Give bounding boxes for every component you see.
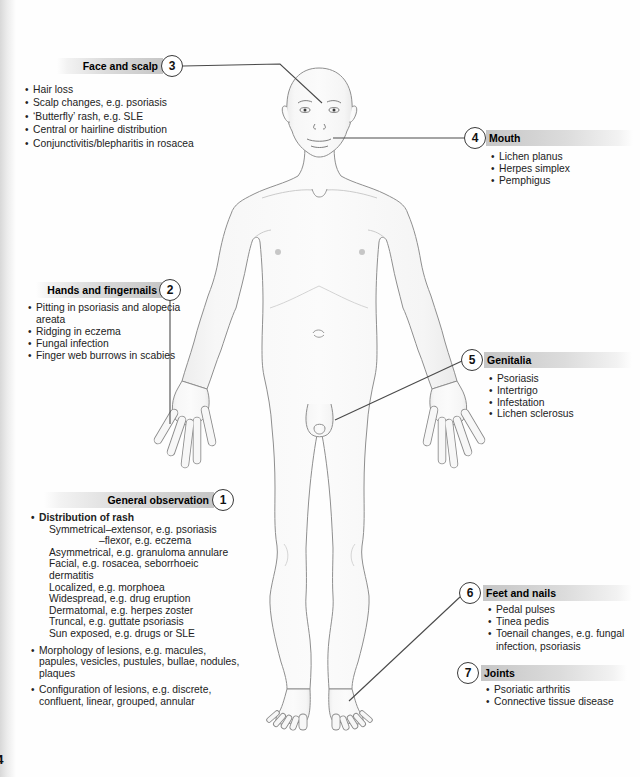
callout-item: •Ridging in eczema (27, 326, 209, 338)
callout-item: –flexor, e.g. eczema (30, 535, 245, 547)
bullet-dot: • (25, 96, 29, 109)
callout-items: •Distribution of rashSymmetrical–extenso… (30, 512, 245, 708)
left-pupil (304, 109, 307, 112)
head (287, 68, 353, 157)
bullet-dot: • (25, 83, 29, 96)
callout-item-text: Ridging in eczema (36, 326, 121, 337)
callout-item-text: Configuration of lesions, e.g. discrete,… (39, 684, 211, 707)
callout-item: Asymmetrical, e.g. granuloma annulare (30, 547, 245, 559)
bullet-dot: • (489, 373, 493, 385)
bullet-dot: • (489, 408, 493, 420)
callout-item: •Herpes simplex (490, 163, 632, 175)
callout-item-text: Facial, e.g. rosacea, seborrhoeic dermat… (49, 558, 198, 581)
callout-items: •Hair loss•Scalp changes, e.g. psoriasis… (24, 83, 196, 150)
callout-item-text: Lichen sclerosus (497, 408, 574, 419)
callout-item-text: Asymmetrical, e.g. granuloma annulare (49, 547, 228, 558)
callout-item-text: Widespread, e.g. drug eruption (49, 593, 190, 604)
callout-item-text: Intertrigo (497, 385, 538, 396)
callout-item-text: Symmetrical–extensor, e.g. psoriasis (49, 524, 217, 535)
bullet-dot: • (28, 302, 32, 314)
bullet-dot: • (491, 175, 495, 187)
callout-item-text: Scalp changes, e.g. psoriasis (33, 97, 167, 108)
callout-item-text: Morphology of lesions, e.g. macules, pap… (39, 645, 239, 679)
callout-item-text: –flexor, e.g. eczema (99, 535, 191, 546)
callout-item-text: Sun exposed, e.g. drugs or SLE (49, 628, 195, 639)
page-number: 4 (0, 752, 4, 767)
callout-number-badge: 7 (457, 662, 479, 684)
callout-item-text: Connective tissue disease (494, 696, 614, 707)
callout-items: •Pitting in psoriasis and alopecia areat… (27, 302, 209, 362)
callout-header-bar: Mouth (486, 130, 633, 146)
callout-item: Localized, e.g. morphoea (30, 582, 245, 594)
callout-header-bar: Joints (481, 665, 627, 681)
callout-number-badge: 5 (461, 349, 483, 371)
callout-item: Dermatomal, e.g. herpes zoster (30, 605, 245, 617)
right-nipple (359, 249, 365, 255)
callout-item: •Tinea pedis (487, 616, 637, 628)
left-nipple (275, 249, 281, 255)
callout-item: Facial, e.g. rosacea, seborrhoeic dermat… (30, 558, 245, 581)
callout-item-text: Tinea pedis (496, 616, 549, 627)
callout-item: •Fungal infection (27, 338, 209, 350)
callout-number-badge: 4 (464, 127, 486, 149)
bullet-dot: • (486, 696, 490, 708)
callout-item-text: Dermatomal, e.g. herpes zoster (49, 605, 193, 616)
callout-item: •Finger web burrows in scabies (27, 350, 209, 362)
callout-item: •‘Butterfly’ rash, e.g. SLE (24, 110, 196, 123)
callout-item: •Distribution of rash (30, 512, 245, 524)
bullet-dot: • (25, 110, 29, 123)
bullet-dot: • (25, 123, 29, 136)
callout-item-text: Psoriatic arthritis (494, 684, 570, 695)
callout-number-badge: 3 (161, 55, 183, 77)
bullet-dot: • (488, 616, 492, 628)
left-foot (269, 689, 310, 727)
callout-item-text: Finger web burrows in scabies (36, 350, 175, 361)
callout-item: Symmetrical–extensor, e.g. psoriasis (30, 524, 245, 536)
callout-item-text: Fungal infection (36, 338, 109, 349)
callout-item: Sun exposed, e.g. drugs or SLE (30, 628, 245, 640)
callout-items: •Pedal pulses•Tinea pedis•Toenail change… (487, 604, 637, 653)
callout-item-text: Distribution of rash (39, 512, 134, 523)
callout-item: •Morphology of lesions, e.g. macules, pa… (30, 645, 245, 680)
callout-item: •Conjunctivitis/blepharitis in rosacea (24, 137, 196, 150)
callout-header-bar: Hands and fingernails (36, 282, 162, 298)
callout-item: •Connective tissue disease (485, 696, 637, 708)
callout-item-text: Lichen planus (499, 151, 563, 162)
callout-item: Truncal, e.g. guttate psoriasis (30, 616, 245, 628)
callout-item-text: Herpes simplex (499, 163, 570, 174)
callout-item: •Lichen planus (490, 151, 632, 163)
callout-item: •Psoriatic arthritis (485, 684, 637, 696)
bullet-dot: • (491, 163, 495, 175)
callout-title: Mouth (486, 130, 633, 146)
right-hand (427, 381, 481, 464)
genitalia (306, 404, 333, 437)
callout-item-text: Pitting in psoriasis and alopecia areata (36, 302, 180, 325)
callout-items: •Psoriasis•Intertrigo•Infestation•Lichen… (488, 373, 636, 420)
right-pupil (333, 109, 336, 112)
callout-title: Genitalia (484, 352, 632, 368)
callout-header-bar: Face and scalp (57, 58, 163, 74)
bullet-dot: • (491, 151, 495, 163)
bullet-dot: • (28, 326, 32, 338)
callout-title: Hands and fingernails (36, 282, 162, 298)
bullet-dot: • (31, 645, 35, 657)
callout-item-text: Infestation (497, 397, 545, 408)
callout-item: •Toenail changes, e.g. fungal infection,… (487, 628, 637, 652)
callout-item: Widespread, e.g. drug eruption (30, 593, 245, 605)
callout-item: •Intertrigo (488, 385, 636, 397)
callout-items: •Psoriatic arthritis•Connective tissue d… (485, 684, 637, 708)
callout-item: •Configuration of lesions, e.g. discrete… (30, 684, 245, 707)
callout-item: •Central or hairline distribution (24, 123, 196, 136)
callout-header-bar: Feet and nails (483, 585, 632, 601)
book-page: Face and scalp 3 •Hair loss•Scalp change… (0, 0, 640, 777)
callout-header-bar: General observation (44, 492, 214, 508)
callout-item-text: Psoriasis (497, 373, 539, 384)
bullet-dot: • (31, 684, 35, 696)
bullet-dot: • (489, 397, 493, 409)
bullet-dot: • (28, 350, 32, 362)
bullet-dot: • (486, 684, 490, 696)
callout-item: •Lichen sclerosus (488, 408, 636, 420)
callout-item: •Pemphigus (490, 175, 632, 187)
callout-item-text: Conjunctivitis/blepharitis in rosacea (33, 138, 194, 149)
left-hand (158, 381, 212, 464)
